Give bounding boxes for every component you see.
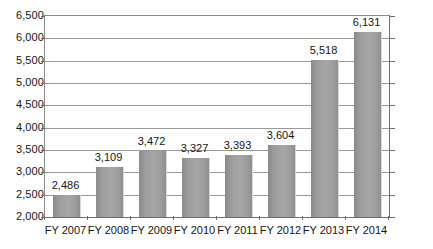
right-axis-tick bbox=[389, 128, 395, 129]
bar-value-label: 2,486 bbox=[40, 180, 92, 191]
y-axis-tick-label: 4,000 bbox=[0, 122, 44, 133]
bar bbox=[225, 155, 253, 217]
y-axis-tick bbox=[41, 38, 45, 39]
bar-value-label: 3,393 bbox=[212, 140, 264, 151]
bar bbox=[311, 60, 339, 217]
y-axis-tick bbox=[41, 172, 45, 173]
bar-value-label: 6,131 bbox=[341, 17, 393, 28]
y-axis-tick-label: 5,500 bbox=[0, 55, 44, 66]
x-axis-category-label: FY 2014 bbox=[341, 224, 393, 236]
right-axis-tick bbox=[389, 105, 395, 106]
y-axis-tick bbox=[41, 83, 45, 84]
bar-value-label: 5,518 bbox=[298, 45, 350, 56]
bar bbox=[354, 32, 382, 217]
x-axis-tick bbox=[259, 216, 260, 220]
y-axis-tick-label: 6,000 bbox=[0, 32, 44, 43]
right-axis-tick bbox=[389, 217, 395, 218]
y-axis-tick bbox=[41, 195, 45, 196]
bar bbox=[139, 151, 167, 217]
gridline bbox=[45, 38, 389, 39]
x-axis-tick bbox=[87, 216, 88, 220]
bar bbox=[96, 167, 124, 217]
y-axis-tick-label: 3,000 bbox=[0, 166, 44, 177]
y-axis-tick bbox=[41, 16, 45, 17]
right-axis-tick bbox=[389, 195, 395, 196]
y-axis-tick bbox=[41, 61, 45, 62]
x-axis-tick bbox=[388, 216, 389, 220]
x-axis-tick bbox=[302, 216, 303, 220]
bar bbox=[268, 145, 296, 217]
bar-value-label: 3,604 bbox=[255, 130, 307, 141]
right-axis-tick bbox=[389, 150, 395, 151]
y-axis-tick bbox=[41, 128, 45, 129]
y-axis-tick bbox=[41, 105, 45, 106]
x-axis-tick bbox=[216, 216, 217, 220]
y-axis-tick-label: 4,500 bbox=[0, 99, 44, 110]
bar bbox=[182, 158, 210, 217]
right-axis-line bbox=[389, 15, 390, 218]
y-axis-tick-label: 2,500 bbox=[0, 189, 44, 200]
right-axis-tick bbox=[389, 38, 395, 39]
x-axis-tick bbox=[44, 216, 45, 220]
y-axis-tick bbox=[41, 150, 45, 151]
bar-chart: 6,5006,0005,5005,0004,5004,0003,5003,000… bbox=[0, 0, 433, 249]
right-axis-tick bbox=[389, 61, 395, 62]
x-axis-tick bbox=[345, 216, 346, 220]
bar bbox=[53, 195, 81, 217]
x-axis-tick bbox=[173, 216, 174, 220]
y-axis-tick-label: 2,000 bbox=[0, 211, 44, 222]
y-axis-tick-label: 6,500 bbox=[0, 10, 44, 21]
bar-value-label: 3,109 bbox=[83, 152, 135, 163]
y-axis-tick-label: 5,000 bbox=[0, 77, 44, 88]
right-axis-tick bbox=[389, 83, 395, 84]
y-axis-tick-label: 3,500 bbox=[0, 144, 44, 155]
right-axis-tick bbox=[389, 172, 395, 173]
x-axis-tick bbox=[130, 216, 131, 220]
